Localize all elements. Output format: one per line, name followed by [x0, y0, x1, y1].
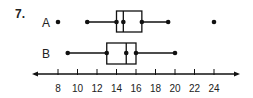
arrow-left-icon — [32, 72, 38, 77]
data-point — [134, 51, 139, 56]
data-point — [140, 20, 145, 25]
box-plot-chart: 7. AB 81012141618202224 — [0, 0, 253, 98]
tick-label: 10 — [72, 83, 84, 94]
data-point — [104, 51, 109, 56]
data-point — [114, 20, 119, 25]
outlier-point — [212, 20, 217, 25]
box-series-a: A — [42, 11, 216, 32]
box-series-b: B — [42, 43, 177, 64]
tick-label: 14 — [111, 83, 123, 94]
tick-label: 20 — [169, 83, 181, 94]
tick-label: 22 — [189, 83, 201, 94]
series-label: A — [42, 16, 50, 30]
tick-label: 24 — [208, 83, 220, 94]
data-point — [121, 20, 126, 25]
arrow-right-icon — [234, 72, 240, 77]
data-point — [166, 20, 171, 25]
number-line-axis: 81012141618202224 — [32, 69, 240, 94]
tick-label: 16 — [130, 83, 142, 94]
data-point — [124, 51, 129, 56]
data-point — [85, 20, 90, 25]
iqr-box — [117, 11, 142, 32]
data-point — [173, 51, 178, 56]
tick-label: 18 — [150, 83, 162, 94]
plot-area: AB — [42, 11, 216, 64]
tick-label: 8 — [55, 83, 61, 94]
problem-number: 7. — [15, 7, 25, 21]
outlier-point — [56, 20, 61, 25]
data-point — [65, 51, 70, 56]
series-label: B — [42, 47, 50, 61]
iqr-box — [107, 43, 136, 64]
tick-label: 12 — [91, 83, 103, 94]
